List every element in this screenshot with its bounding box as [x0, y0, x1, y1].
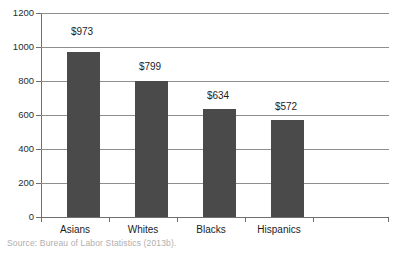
bar-value-asians: $973 [47, 26, 117, 37]
x-category-label-hispanics: Hispanics [244, 224, 314, 236]
x-axis-tick-2 [177, 217, 178, 222]
bar-hispanics [271, 120, 304, 217]
y-tick-label-400: 400 [2, 144, 34, 154]
x-category-label-asians: Asians [40, 224, 110, 236]
bar-blacks [203, 109, 236, 217]
gridline-1000 [41, 47, 389, 48]
x-category-label-blacks: Blacks [176, 224, 246, 236]
bar-asians [67, 52, 100, 217]
gridline-1200 [41, 13, 389, 14]
x-axis-tick-1 [109, 217, 110, 222]
x-axis-tick-3 [245, 217, 246, 222]
x-axis-tick-0 [41, 217, 42, 222]
gridline-baseline-0 [41, 217, 389, 218]
x-axis-tick-5 [388, 217, 389, 222]
y-tick-label-1000: 1000 [2, 42, 34, 52]
y-tick-label-0: 0 [2, 212, 34, 222]
y-tick-label-200: 200 [2, 178, 34, 188]
y-tick-label-600: 600 [2, 110, 34, 120]
y-tick-label-800: 800 [2, 76, 34, 86]
bar-chart-figure: 1200 1000 800 600 400 200 0 $973 $799 $6… [0, 0, 398, 253]
bar-whites [135, 81, 168, 217]
y-tick-label-1200: 1200 [2, 8, 34, 18]
plot-area [41, 13, 389, 217]
bar-value-hispanics: $572 [251, 101, 321, 112]
bar-value-blacks: $634 [183, 90, 253, 101]
x-axis-tick-4 [313, 217, 314, 222]
y-axis-labels: 1200 1000 800 600 400 200 0 [0, 0, 34, 253]
x-category-label-whites: Whites [108, 224, 178, 236]
bar-value-whites: $799 [115, 61, 185, 72]
source-note: Source: Bureau of Labor Statistics (2013… [7, 238, 176, 248]
